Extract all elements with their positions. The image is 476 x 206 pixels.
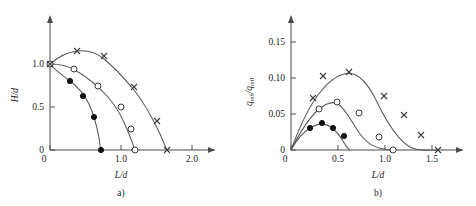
x-tick-label-a-0: 0: [42, 154, 47, 164]
chart-b-svg: 0 0.5 1.0 1.5 0 0.05 0.10 0.15 qmh/qm0 L…: [238, 0, 476, 206]
y-label-b-sub1: mh: [248, 93, 255, 101]
y-ticks-a: [50, 64, 55, 150]
x-tick-label-b-0: 0: [283, 154, 288, 164]
panel-a: 0 1.0 2.0 0 0.5 1.0 H/d L/d a): [0, 0, 238, 206]
chart-a-svg: 0 1.0 2.0 0 0.5 1.0 H/d L/d a): [0, 0, 238, 206]
y-tick-label-b-3: 0.15: [268, 37, 285, 47]
x-tick-label-b-1: 0.5: [332, 154, 344, 164]
x-tick-label-a-1: 1.0: [115, 154, 127, 164]
y-axis-arrow-a: [47, 15, 53, 23]
y-axis-label-a: H/d: [10, 88, 20, 104]
curve-a-filled: [50, 64, 101, 150]
y-tick-label-b-2: 0.10: [268, 73, 285, 83]
y-tick-label-b-0: 0: [280, 145, 285, 155]
x-axis-label-a: L/d: [114, 170, 128, 180]
x-tick-label-a-2: 2.0: [186, 154, 198, 164]
y-tick-label-a-0: 0: [39, 145, 44, 155]
svg-text:qmh/qm0: qmh/qm0: [244, 77, 255, 106]
x-axis-label-b: L/d: [371, 170, 385, 180]
y-tick-label-a-2: 1.0: [32, 59, 44, 69]
y-ticks-b: [291, 42, 296, 150]
markers-a-filled: [67, 78, 103, 152]
x-ticks-a: [50, 145, 192, 150]
y-label-b-sub2: m0: [248, 77, 255, 86]
y-label-b-div: /q: [244, 86, 254, 95]
y-tick-label-b-1: 0.05: [268, 109, 285, 119]
markers-a-cross: [47, 48, 170, 153]
y-tick-label-a-1: 0.5: [32, 102, 44, 112]
markers-b-open: [316, 99, 396, 153]
x-axis-arrow-b: [456, 147, 463, 153]
panel-b: 0 0.5 1.0 1.5 0 0.05 0.10 0.15 qmh/qm0 L…: [238, 0, 476, 206]
x-tick-label-b-2: 1.0: [379, 154, 391, 164]
panel-caption-b: b): [374, 188, 382, 199]
axes-b: [288, 15, 463, 153]
curve-b-open: [291, 103, 393, 150]
panel-caption-a: a): [117, 188, 124, 199]
x-tick-label-b-3: 1.5: [426, 154, 438, 164]
markers-b-filled: [307, 120, 346, 138]
figure-container: 0 1.0 2.0 0 0.5 1.0 H/d L/d a): [0, 0, 476, 206]
x-axis-arrow-a: [208, 147, 215, 153]
curve-a-cross: [50, 51, 167, 150]
y-axis-label-b: qmh/qm0: [244, 77, 255, 106]
markers-a-open: [47, 61, 138, 153]
y-axis-arrow-b: [288, 15, 294, 23]
